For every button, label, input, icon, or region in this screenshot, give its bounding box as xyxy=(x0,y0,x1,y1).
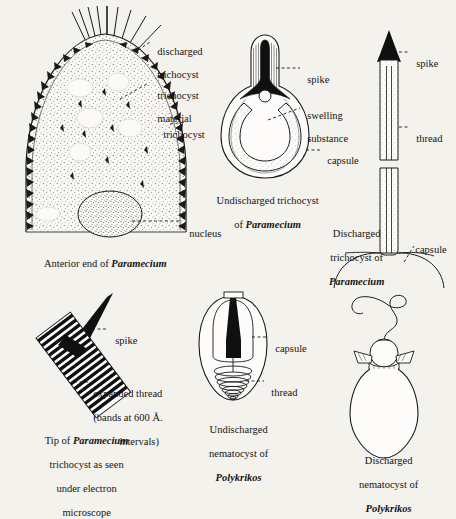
label-capsule-panel2: capsule xyxy=(322,143,359,166)
caption-anterior-plain: Anterior end of xyxy=(44,258,111,269)
panel-undischarged-nematocyst-polykrikos xyxy=(199,292,268,400)
label-swelling-line2: substance xyxy=(307,133,348,144)
caption-undisnem-line1: Undischarged xyxy=(210,424,268,435)
caption-disnem-line1: Discharged xyxy=(365,455,413,466)
label-thread-panel3: thread xyxy=(411,121,443,144)
label-discharged-trichocyst-line1: discharged xyxy=(157,46,202,57)
label-trichocyst: trichocyst xyxy=(158,117,205,140)
caption-undischarged-nematocyst: Undischarged nematocyst of Polykrikos xyxy=(180,412,292,484)
flap-right xyxy=(396,351,414,363)
head-bulb xyxy=(370,339,398,367)
caption-dis-line1: Discharged xyxy=(333,228,381,239)
label-capsule-panel2-text: capsule xyxy=(327,155,359,166)
label-spike-panel4: spike xyxy=(110,323,137,346)
apical-cap xyxy=(224,292,243,298)
caption-tip-paramecium-trichocyst: Tip of Paramecium trichocyst as seen und… xyxy=(6,423,162,519)
caption-undisnem-species: Polykrikos xyxy=(216,472,262,483)
label-spike-panel3: spike xyxy=(411,46,438,69)
label-capsule-panel5-text: capsule xyxy=(275,343,307,354)
label-capsule-panel5: capsule xyxy=(270,331,307,354)
label-trichocyst-text: trichocyst xyxy=(163,129,204,140)
caption-tip-line1-plain: Tip of xyxy=(45,435,73,446)
label-thread-panel5-text: thread xyxy=(271,387,297,398)
caption-tip-line2: trichocyst as seen xyxy=(50,459,124,470)
flap-left xyxy=(354,351,372,363)
label-thread-panel3-text: thread xyxy=(416,133,442,144)
caption-discharged-nematocyst: Discharged nematocyst of Polykrikos xyxy=(330,443,442,515)
everted-thread xyxy=(352,295,406,341)
caption-discharged-trichocyst: Discharged trichocyst of Paramecium xyxy=(306,216,402,288)
caption-undis-line2-plain: of xyxy=(234,219,245,230)
caption-tip-line3: under electron xyxy=(56,483,116,494)
swelling-body-circle xyxy=(259,90,271,102)
label-spike-panel4-text: spike xyxy=(115,335,137,346)
caption-anterior-species: Paramecium xyxy=(111,258,166,269)
caption-disnem-species: Polykrikos xyxy=(366,503,412,514)
label-swelling-substance: swelling substance xyxy=(302,98,348,144)
caption-dis-line2: trichocyst of xyxy=(330,252,383,263)
label-thread-panel5: thread xyxy=(266,375,298,398)
caption-undis-species: Paramecium xyxy=(246,219,301,230)
spike-shape xyxy=(377,30,401,62)
thread-upper xyxy=(380,60,398,160)
caption-anterior-end-paramecium: Anterior end of Paramecium xyxy=(8,246,198,270)
caption-tip-line4: microscope xyxy=(62,507,110,518)
label-spike-panel3-text: spike xyxy=(416,58,438,69)
label-swelling-line1: swelling xyxy=(307,110,343,121)
label-capsule-panel3-text: capsule xyxy=(415,244,447,255)
label-spike-panel2-text: spike xyxy=(307,74,329,85)
panel-discharged-nematocyst-polykrikos xyxy=(350,295,418,458)
caption-disnem-line2: nematocyst of xyxy=(359,479,418,490)
caption-dis-species: Paramecium xyxy=(329,276,384,287)
caption-undis-line1: Undischarged trichocyst xyxy=(217,195,319,206)
label-expanded-thread-line2: (bands at 600 Å. xyxy=(93,412,162,423)
nucleus-shape xyxy=(78,191,142,237)
label-spike-panel2: spike xyxy=(302,62,329,85)
label-expanded-thread-line1: expanded thread xyxy=(93,388,162,399)
caption-tip-species: Paramecium xyxy=(73,435,128,446)
label-capsule-panel3: capsule xyxy=(410,232,447,255)
caption-undisnem-line2: nematocyst of xyxy=(209,448,268,459)
label-discharged-trichocyst: discharged trichocyst xyxy=(152,34,203,80)
label-trichocyst-material-line1: trichocyst xyxy=(157,90,198,101)
